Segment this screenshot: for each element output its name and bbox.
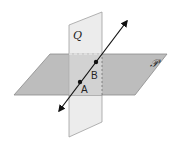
plane-q-label: Q xyxy=(73,29,82,42)
planes-diagram: Q 𝒫 A B xyxy=(0,0,178,145)
point-b-label: B xyxy=(91,70,98,81)
point-a-label: A xyxy=(81,84,88,95)
plane-q-lower xyxy=(69,95,102,137)
point-b xyxy=(94,60,98,64)
